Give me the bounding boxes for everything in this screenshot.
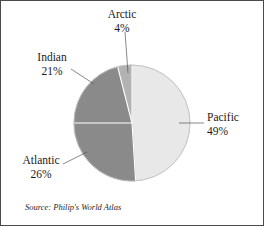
pie-label-pacific-percent: 49% — [207, 125, 261, 139]
pie-label-pacific: Pacific 49% — [207, 111, 261, 138]
pie-label-indian-name: Indian — [21, 51, 83, 65]
pie-label-atlantic-name: Atlantic — [5, 154, 77, 168]
pie-label-atlantic: Atlantic 26% — [5, 154, 77, 181]
pie-label-arctic-name: Arctic — [93, 8, 151, 22]
pie-chart-figure: Arctic 4% Indian 21% Atlantic 26% Pacifi… — [0, 0, 264, 226]
pie-label-indian: Indian 21% — [21, 51, 83, 78]
pie-label-indian-percent: 21% — [21, 65, 83, 79]
pie-label-pacific-name: Pacific — [207, 111, 261, 125]
pie-label-arctic-percent: 4% — [93, 22, 151, 36]
pie-slice-atlantic — [74, 123, 136, 181]
pie-label-arctic: Arctic 4% — [93, 8, 151, 35]
pie-label-atlantic-percent: 26% — [5, 168, 77, 182]
source-caption: Source: Philip's World Atlas — [25, 202, 121, 212]
